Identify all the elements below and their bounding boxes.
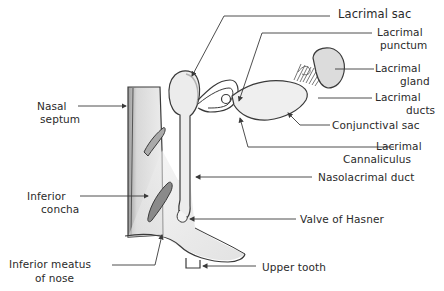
label-lacrimal-sac: Lacrimal sac (338, 8, 411, 20)
label-conjunctival-sac: Conjunctival sac (332, 119, 420, 131)
label-lacrimal-punctum-line1: Lacrimal (377, 26, 423, 38)
label-inferior-meatus-line1: Inferior meatus (9, 258, 91, 270)
label-lacrimal-canaliculus-line2: Cannaliculus (343, 153, 411, 165)
label-lacrimal-canaliculus-line1: Lacrimal (376, 140, 422, 152)
label-lacrimal-gland-line1: Lacrimal (375, 62, 421, 74)
leader-lines (78, 16, 394, 266)
label-upper-tooth: Upper tooth (262, 261, 326, 273)
label-inferior-concha-line2: concha (41, 203, 79, 215)
label-lacrimal-gland-line2: gland (400, 75, 430, 87)
label-nasolacrimal-duct: Nasolacrimal duct (318, 171, 414, 183)
label-inferior-meatus-line2: of nose (35, 272, 74, 284)
label-lacrimal-ducts-line1: Lacrimal (375, 91, 421, 103)
label-lacrimal-punctum-line2: punctum (380, 39, 427, 51)
label-valve-of-hasner: Valve of Hasner (300, 213, 384, 225)
conjunctival-sac (232, 81, 307, 120)
label-lacrimal-ducts-line2: ducts (406, 104, 435, 116)
label-inferior-concha-line1: Inferior (27, 190, 66, 202)
label-nasal-septum-line2: septum (40, 113, 80, 125)
upper-tooth (186, 258, 200, 268)
label-nasal-septum-line1: Nasal (37, 100, 67, 112)
